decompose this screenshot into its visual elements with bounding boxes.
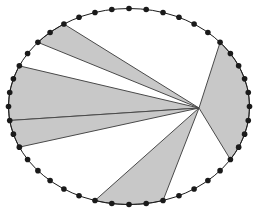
perimeter-dot [11,131,17,137]
perimeter-dot [245,90,251,96]
perimeter-dot [109,7,115,13]
perimeter-dot [35,168,41,174]
perimeter-dot [47,178,53,184]
perimeter-dot [7,118,13,124]
perimeter-dot [7,90,13,96]
perimeter-dot [47,30,53,36]
perimeter-dot [25,51,31,57]
perimeter-dot [176,15,182,21]
perimeter-dot [11,76,17,82]
perimeter-dot [160,198,166,204]
perimeter-dot [61,186,67,192]
perimeter-dot [217,40,223,46]
perimeter-dot [143,7,149,13]
perimeter-dot [17,63,23,69]
perimeter-dot [76,15,82,21]
perimeter-dot [236,144,242,150]
perimeter-dot [191,21,197,27]
perimeter-dot [247,104,253,110]
ellipse-wedge-diagram [0,0,258,213]
perimeter-dot [92,198,98,204]
perimeter-dot [242,131,248,137]
perimeter-dot [228,51,234,57]
perimeter-dot [236,63,242,69]
perimeter-dot [92,10,98,16]
perimeter-dot [245,118,251,124]
perimeter-dot [160,10,166,16]
perimeter-dot [205,178,211,184]
perimeter-dot [6,104,12,110]
perimeter-dot [205,30,211,36]
perimeter-dot [191,186,197,192]
perimeter-dot [242,76,248,82]
perimeter-dot [228,157,234,163]
perimeter-dot [126,202,132,208]
perimeter-dot [35,40,41,46]
perimeter-dot [76,193,82,199]
perimeter-dot [61,21,67,27]
perimeter-dot [17,144,23,150]
perimeter-dot [143,201,149,207]
perimeter-dot [109,201,115,207]
perimeter-dot [217,168,223,174]
perimeter-dot [25,157,31,163]
perimeter-dot [126,6,132,12]
figure-canvas [0,0,258,213]
perimeter-dot [176,193,182,199]
